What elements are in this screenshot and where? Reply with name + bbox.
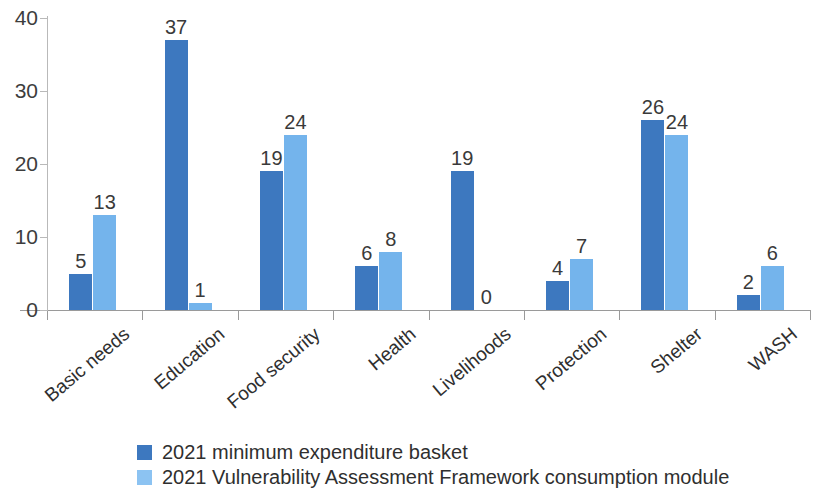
bar-series-0-protection (546, 281, 569, 310)
x-axis-tick (524, 311, 525, 320)
y-axis-tick-label: 30 (0, 80, 38, 101)
bar-value-label: 24 (659, 112, 694, 132)
bar-value-label: 7 (564, 236, 599, 256)
x-axis-label: Shelter (647, 324, 706, 378)
y-axis-tick-label: 40 (0, 7, 38, 28)
bar-value-label: 6 (755, 243, 790, 263)
x-axis-tick (715, 311, 716, 320)
bar-series-1-wash (761, 266, 784, 310)
bar-value-label: 19 (445, 148, 480, 168)
bar-value-label: 13 (87, 192, 122, 212)
legend-item-1[interactable]: 2021 Vulnerability Assessment Framework … (137, 465, 729, 489)
bar-series-0-shelter (641, 120, 664, 310)
bar-series-1-education (189, 303, 212, 310)
bar-value-label: 37 (159, 17, 194, 37)
plot-area: 51337119246819047262426 (47, 18, 810, 310)
bar-value-label: 24 (278, 112, 313, 132)
bar-series-1-basic-needs (93, 215, 116, 310)
x-axis-tick (619, 311, 620, 320)
bar-series-0-food-security (260, 171, 283, 310)
legend-item-1-label: 2021 Vulnerability Assessment Framework … (162, 466, 729, 488)
bar-series-1-health (379, 252, 402, 310)
x-axis-line (20, 310, 811, 311)
bar-series-0-health (355, 266, 378, 310)
bar-series-0-basic-needs (69, 274, 92, 311)
x-axis-tick (810, 311, 811, 320)
x-axis-label: Food security (224, 324, 324, 413)
bar-value-label: 8 (373, 229, 408, 249)
x-axis-label: WASH (745, 324, 801, 376)
series-0-swatch-icon (137, 445, 152, 460)
bar-series-0-wash (737, 295, 760, 310)
legend-item-0-label: 2021 minimum expenditure basket (162, 441, 468, 463)
bar-series-0-education (165, 40, 188, 310)
bar-value-label: 1 (183, 280, 218, 300)
x-axis-label: Health (365, 324, 420, 375)
bar-series-1-shelter (665, 135, 688, 310)
x-axis-tick (238, 311, 239, 320)
y-axis-tick-label: 0 (0, 299, 38, 320)
x-axis-label: Livelihoods (429, 324, 515, 400)
x-axis-tick (333, 311, 334, 320)
x-axis-label: Basic needs (41, 324, 133, 406)
x-axis-tick (47, 311, 48, 320)
y-axis-tick-label: 20 (0, 153, 38, 174)
x-axis-label: Education (151, 324, 229, 394)
series-1-swatch-icon (137, 470, 152, 485)
bar-value-label: 0 (469, 287, 504, 307)
legend: 2021 minimum expenditure basket 2021 Vul… (137, 440, 729, 490)
bar-series-1-protection (570, 259, 593, 310)
legend-item-0[interactable]: 2021 minimum expenditure basket (137, 440, 729, 464)
y-axis-tick-label: 10 (0, 226, 38, 247)
x-axis-tick (429, 311, 430, 320)
bar-series-1-food-security (284, 135, 307, 310)
x-axis-label: Protection (532, 324, 610, 394)
x-axis-tick (142, 311, 143, 320)
